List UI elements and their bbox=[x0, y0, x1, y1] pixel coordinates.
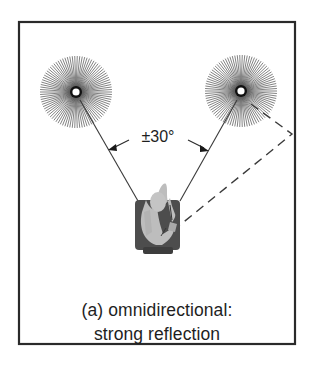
room-boundary bbox=[19, 22, 295, 344]
caption-line-1: (a) omnidirectional: bbox=[18, 300, 296, 320]
angle-label: ±30° bbox=[136, 128, 180, 146]
listener-icon bbox=[135, 184, 180, 254]
left-speaker-icon bbox=[40, 56, 112, 128]
reflection-path bbox=[180, 104, 292, 225]
caption-line-2: strong reflection bbox=[18, 324, 296, 344]
direct-path-right bbox=[180, 100, 237, 201]
right-speaker-icon bbox=[205, 55, 277, 127]
direct-path-left bbox=[80, 100, 138, 201]
angle-arrow-left bbox=[108, 140, 129, 151]
angle-arrow-right bbox=[188, 140, 209, 152]
